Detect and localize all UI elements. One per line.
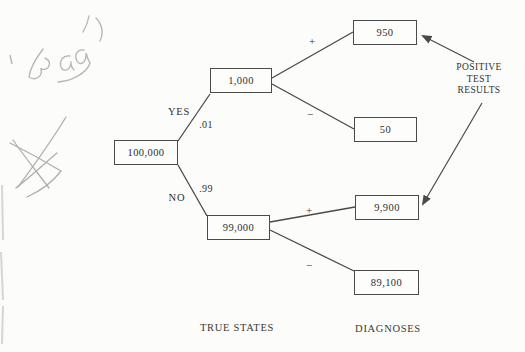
positive-test-results-line3: RESULTS xyxy=(444,85,514,97)
minus-sign-top: − xyxy=(307,108,313,120)
pencil-x-scribble xyxy=(10,117,66,197)
scanned-tree-diagram-page: 100,000 1,000 99,000 950 50 9,900 89,100… xyxy=(0,0,525,352)
handwritten-bayes-note xyxy=(29,16,102,82)
branch-yes-line xyxy=(178,94,210,141)
branch-label-yes: YES xyxy=(168,106,190,117)
node-true-no: 99,000 xyxy=(207,215,270,240)
scan-edge-artifact xyxy=(1,55,12,344)
diagram-lines-layer xyxy=(0,0,525,352)
branch-probability-yes: .01 xyxy=(199,119,212,130)
column-caption-true-states: TRUE STATES xyxy=(200,322,274,333)
node-root-population: 100,000 xyxy=(114,140,178,165)
node-yes-positive: 950 xyxy=(353,20,417,45)
plus-sign-top: + xyxy=(309,35,315,47)
column-caption-diagnoses: DIAGNOSES xyxy=(355,323,421,334)
node-no-positive: 9,900 xyxy=(355,195,419,220)
node-no-negative: 89,100 xyxy=(354,270,419,295)
branch-label-no: NO xyxy=(169,192,186,203)
arrow-to-9900 xyxy=(423,103,482,204)
node-true-yes: 1,000 xyxy=(210,68,272,93)
minus-sign-bottom: − xyxy=(306,259,312,271)
branch-probability-no: .99 xyxy=(199,183,212,194)
positive-test-results-line1: POSITIVE xyxy=(444,62,514,74)
branch-no-positive-line xyxy=(270,207,355,222)
node-yes-negative: 50 xyxy=(354,117,417,142)
arrow-to-950 xyxy=(423,36,474,62)
branch-yes-negative-line xyxy=(272,84,354,129)
positive-test-results-caption: POSITIVE TEST RESULTS xyxy=(444,62,514,97)
positive-test-results-line2: TEST xyxy=(444,74,514,86)
plus-sign-bottom: + xyxy=(306,204,312,216)
